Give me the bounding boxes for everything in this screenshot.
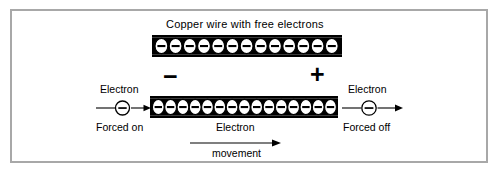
positive-terminal-sign: + <box>310 62 325 87</box>
top-copper-wire <box>152 35 342 61</box>
outgoing-electron-group <box>342 100 404 120</box>
diagram-title: Copper wire with free electrons <box>166 19 324 30</box>
electron-movement-bottom-caption: movement <box>212 148 261 159</box>
negative-terminal-sign: − <box>163 64 178 89</box>
outgoing-electron-bottom-caption: Forced off <box>343 122 390 133</box>
bottom-wire-graphic <box>150 96 338 118</box>
incoming-electron-graphic <box>96 100 152 116</box>
electron-movement-top-caption: Electron <box>216 122 255 133</box>
electron-flow-diagram: Copper wire with free electrons <box>0 0 501 173</box>
bottom-copper-wire <box>150 96 338 122</box>
top-wire-graphic <box>152 35 342 57</box>
outgoing-electron-top-caption: Electron <box>348 84 387 95</box>
incoming-electron-top-caption: Electron <box>100 84 139 95</box>
incoming-electron-group <box>96 100 152 120</box>
outgoing-electron-graphic <box>342 100 404 116</box>
incoming-electron-bottom-caption: Forced on <box>96 122 143 133</box>
